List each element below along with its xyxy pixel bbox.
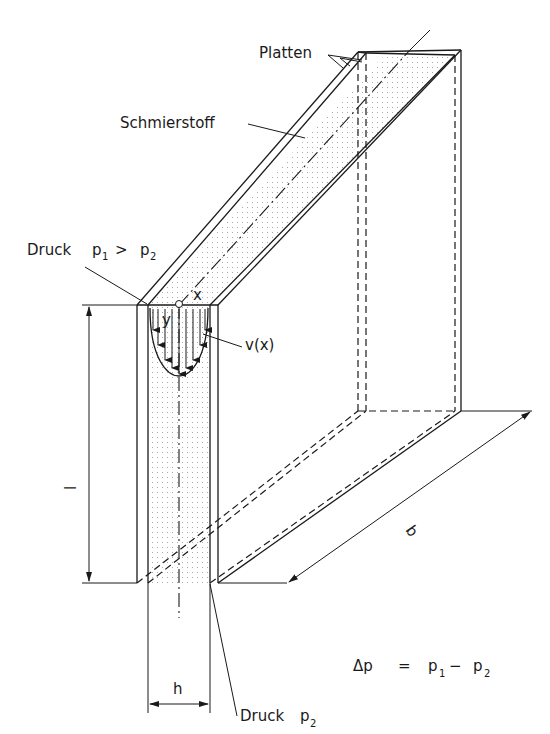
formula-sub2: 2 (484, 668, 490, 679)
lubricant-label: Schmierstoff (120, 114, 215, 132)
formula-sub1: 1 (439, 668, 445, 679)
plates-label: Platten (259, 44, 312, 62)
formula-minus: − (449, 657, 462, 675)
dimension-length: l (62, 305, 137, 583)
lubricant-leader (248, 124, 305, 138)
inlet-gt: > (115, 241, 128, 259)
lubricant-top-fill (148, 55, 455, 305)
centerline-oblique (179, 50, 410, 305)
inlet-p2: p (140, 241, 150, 259)
inlet-sub1: 1 (102, 251, 108, 262)
inlet-sub2: 2 (150, 251, 156, 262)
inlet-druck: Druck (27, 241, 71, 259)
outlet-pressure-label: Druck p 2 (210, 584, 316, 729)
centerline-extension (410, 30, 430, 50)
inlet-p1: p (92, 241, 102, 259)
axis-y-label: y (162, 311, 171, 329)
inlet-pressure-label: Druck p 1 > p 2 (27, 241, 156, 304)
gap-label: h (173, 680, 183, 698)
dimension-width: b (218, 411, 532, 583)
pressure-difference-formula: Δp = p 1 − p 2 (353, 657, 490, 679)
formula-delta: Δp (353, 657, 373, 675)
lubricant-gap-diagram: l h b x y Platten Schmierstoff (0, 0, 550, 734)
formula-eq: = (398, 657, 411, 675)
width-label: b (402, 522, 422, 540)
outlet-p: p (300, 707, 310, 725)
formula-p1: p (428, 657, 438, 675)
outlet-sub: 2 (310, 718, 316, 729)
length-label: l (62, 486, 80, 490)
axis-x-label: x (193, 286, 202, 304)
formula-p2: p (473, 657, 483, 675)
velocity-label: v(x) (245, 336, 274, 354)
origin-marker (176, 301, 183, 308)
outlet-druck: Druck (240, 707, 284, 725)
